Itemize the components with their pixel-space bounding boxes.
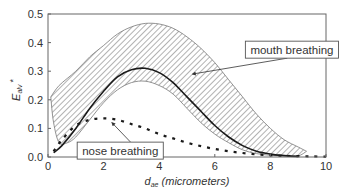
annotation-label: nose breathing [82, 145, 158, 157]
y-tick-label: 0.4 [28, 37, 43, 49]
efficiency-chart: 0246810 0.00.10.20.30.40.5 mouth breathi… [0, 0, 341, 194]
annotation-arrow [112, 123, 131, 142]
x-tick-label: 6 [212, 160, 218, 172]
y-tick-label: 0.3 [28, 65, 43, 77]
x-tick-label: 8 [267, 160, 273, 172]
y-tick-label: 0.5 [28, 8, 43, 20]
chart-container: 0246810 0.00.10.20.30.40.5 mouth breathi… [0, 0, 341, 194]
x-tick-label: 0 [45, 160, 51, 172]
x-tick-label: 10 [320, 160, 332, 172]
annotation-nose-breathing: nose breathing [77, 142, 163, 159]
x-axis-label: dae (micrometers) [145, 175, 230, 188]
y-axis-label: Ealv* [8, 79, 23, 101]
y-tick-label: 0.1 [28, 122, 43, 134]
y-tick-label: 0.2 [28, 94, 43, 106]
x-tick-label: 4 [156, 160, 162, 172]
annotation-label: mouth breathing [250, 44, 333, 56]
y-tick-label: 0.0 [28, 151, 43, 163]
x-tick-label: 2 [101, 160, 107, 172]
annotation-mouth-breathing: mouth breathing [245, 41, 338, 58]
